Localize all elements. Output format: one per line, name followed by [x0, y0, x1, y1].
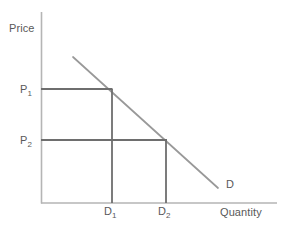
x-axis-title: Quantity	[220, 206, 262, 218]
tick-label-quantity-1-subscript: 1	[112, 211, 116, 220]
tick-label-price-2: P2	[20, 134, 32, 148]
tick-label-price-1: P1	[20, 83, 32, 97]
demand-curve-chart: Price Quantity P1 P2 D1 D2 D	[0, 0, 285, 228]
tick-label-quantity-2-subscript: 2	[166, 211, 170, 220]
tick-label-quantity-1-base: D	[104, 205, 112, 217]
tick-label-quantity-2: D2	[158, 205, 171, 219]
tick-label-price-1-subscript: 1	[27, 89, 31, 98]
tick-label-price-2-subscript: 2	[27, 140, 31, 149]
tick-label-quantity-2-base: D	[158, 205, 166, 217]
demand-curve-label: D	[226, 178, 234, 190]
y-axis-title: Price	[9, 22, 35, 34]
demand-curve-line	[73, 57, 218, 188]
chart-canvas	[0, 0, 285, 228]
tick-label-quantity-1: D1	[104, 205, 117, 219]
